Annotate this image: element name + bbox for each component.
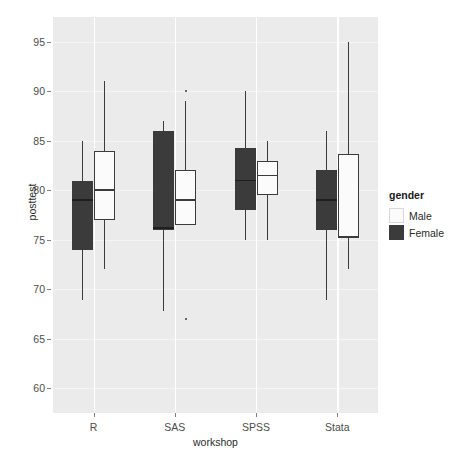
legend-key-male-icon <box>389 208 404 223</box>
whisker-lower <box>267 195 268 240</box>
whisker-upper <box>163 121 164 131</box>
whisker-upper <box>104 81 105 150</box>
box-spss-male[interactable] <box>257 17 278 413</box>
outlier-point <box>185 90 187 92</box>
y-tick-mark-75 <box>47 240 51 241</box>
y-tick-mark-80 <box>47 190 51 191</box>
legend-label-male: Male <box>409 210 432 222</box>
plot-panel <box>53 17 378 413</box>
boxplot-figure: 6065707580859095 posttest RSASSPSSStata … <box>0 0 465 464</box>
whisker-upper <box>326 131 327 171</box>
legend-key-female-icon <box>389 225 404 240</box>
whisker-lower <box>245 210 246 240</box>
x-tick-label-sas: SAS <box>135 421 215 433</box>
median-line <box>94 189 115 191</box>
whisker-upper <box>185 101 186 170</box>
median-line <box>153 227 174 229</box>
y-tick-mark-95 <box>47 42 51 43</box>
y-tick-mark-65 <box>47 339 51 340</box>
whisker-lower <box>326 230 327 300</box>
box-rect <box>257 161 278 196</box>
box-stata-male[interactable] <box>338 17 359 413</box>
median-line <box>72 199 93 201</box>
y-tick-label-85: 85 <box>19 136 45 146</box>
x-tick-mark-stata <box>337 413 338 417</box>
whisker-upper <box>82 141 83 182</box>
x-tick-label-spss: SPSS <box>216 421 296 433</box>
box-rect <box>175 170 196 224</box>
legend-item-female[interactable]: Female <box>389 224 463 241</box>
y-axis-label: posttest <box>26 162 38 242</box>
box-sas-male[interactable] <box>175 17 196 413</box>
box-stata-female[interactable] <box>316 17 337 413</box>
legend: gender Male Female <box>389 189 463 241</box>
x-tick-label-r: R <box>54 421 134 433</box>
x-tick-mark-sas <box>175 413 176 417</box>
box-rect <box>72 181 93 249</box>
box-rect <box>153 131 174 230</box>
y-tick-label-65: 65 <box>19 334 45 344</box>
y-tick-mark-70 <box>47 289 51 290</box>
box-r-male[interactable] <box>94 17 115 413</box>
median-line <box>175 199 196 201</box>
whisker-lower <box>82 250 83 300</box>
legend-title: gender <box>389 189 463 201</box>
whisker-upper <box>267 141 268 161</box>
y-tick-label-70: 70 <box>19 284 45 294</box>
y-tick-label-60: 60 <box>19 383 45 393</box>
box-rect <box>94 151 115 220</box>
median-line <box>316 199 337 201</box>
x-tick-mark-r <box>94 413 95 417</box>
y-tick-mark-90 <box>47 91 51 92</box>
outlier-point <box>185 318 187 320</box>
whisker-lower <box>348 238 349 270</box>
legend-item-male[interactable]: Male <box>389 207 463 224</box>
box-spss-female[interactable] <box>235 17 256 413</box>
x-axis-label: workshop <box>53 436 378 448</box>
whisker-lower <box>104 220 105 270</box>
y-tick-label-95: 95 <box>19 37 45 47</box>
legend-label-female: Female <box>409 227 444 239</box>
median-line <box>235 180 256 182</box>
median-line <box>257 175 278 177</box>
box-sas-female[interactable] <box>153 17 174 413</box>
median-line <box>338 236 359 238</box>
y-tick-mark-85 <box>47 141 51 142</box>
whisker-upper <box>245 91 246 147</box>
box-r-female[interactable] <box>72 17 93 413</box>
whisker-upper <box>348 42 349 154</box>
y-tick-mark-60 <box>47 388 51 389</box>
x-tick-mark-spss <box>256 413 257 417</box>
x-tick-label-stata: Stata <box>297 421 377 433</box>
y-tick-label-90: 90 <box>19 86 45 96</box>
box-rect <box>338 154 359 238</box>
whisker-lower <box>163 230 164 311</box>
